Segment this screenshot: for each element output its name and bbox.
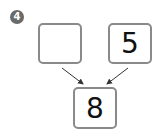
- arrows: [0, 0, 161, 136]
- right-arrow-icon: [107, 68, 128, 84]
- left-arrow-icon: [62, 68, 83, 84]
